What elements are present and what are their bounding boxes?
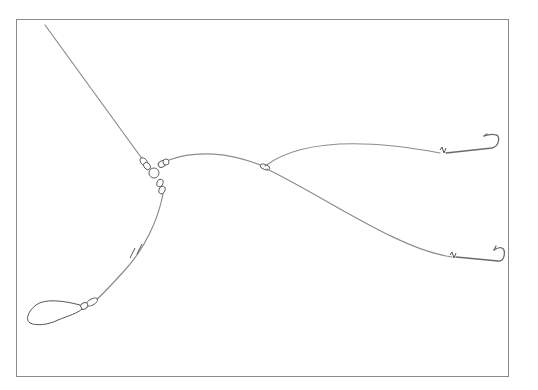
- main-line: [45, 25, 143, 160]
- lower-trace: [267, 169, 452, 257]
- lower-hook: [450, 246, 504, 261]
- swivel-upper-knot: [157, 159, 169, 169]
- hook-trace: [169, 154, 265, 167]
- fishing-rig-diagram: [0, 0, 538, 390]
- main-line-knot: [138, 156, 151, 171]
- upper-hook: [440, 134, 499, 153]
- swivel-ring: [149, 168, 159, 178]
- sinker: [28, 301, 82, 325]
- upper-dropper: [265, 144, 440, 166]
- sinker-link: [96, 194, 163, 300]
- swivel-lower-knot: [156, 178, 166, 195]
